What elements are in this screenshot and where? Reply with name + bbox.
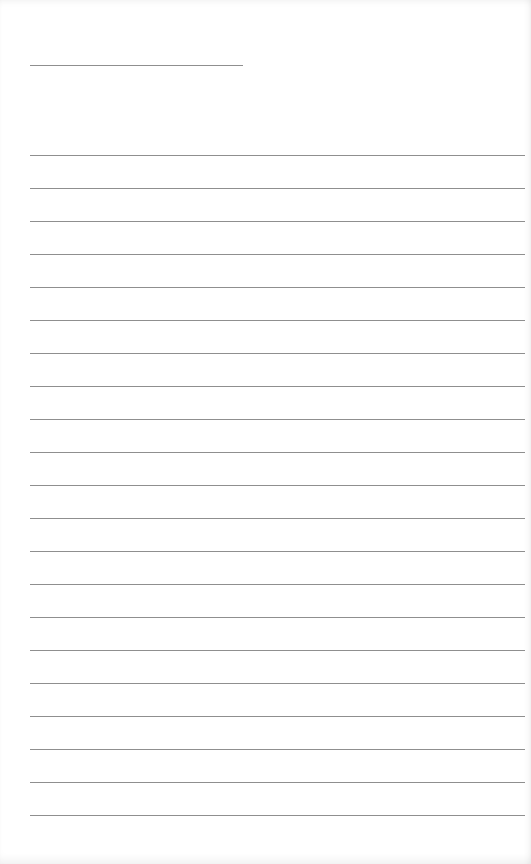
ruled-line[interactable] bbox=[30, 155, 525, 156]
ruled-line[interactable] bbox=[30, 452, 525, 453]
ruled-line[interactable] bbox=[30, 650, 525, 651]
ruled-line[interactable] bbox=[30, 716, 525, 717]
lined-paper-sheet bbox=[0, 0, 531, 864]
ruled-line[interactable] bbox=[30, 584, 525, 585]
ruled-line[interactable] bbox=[30, 254, 525, 255]
ruled-line[interactable] bbox=[30, 386, 525, 387]
ruled-line[interactable] bbox=[30, 419, 525, 420]
ruled-line[interactable] bbox=[30, 683, 525, 684]
header-write-line[interactable] bbox=[30, 65, 243, 66]
ruled-line[interactable] bbox=[30, 320, 525, 321]
ruled-line[interactable] bbox=[30, 221, 525, 222]
ruled-line[interactable] bbox=[30, 551, 525, 552]
ruled-line[interactable] bbox=[30, 518, 525, 519]
ruled-line[interactable] bbox=[30, 485, 525, 486]
ruled-line[interactable] bbox=[30, 749, 525, 750]
ruled-line[interactable] bbox=[30, 353, 525, 354]
ruled-line[interactable] bbox=[30, 617, 525, 618]
ruled-line[interactable] bbox=[30, 815, 525, 816]
ruled-line[interactable] bbox=[30, 287, 525, 288]
ruled-line[interactable] bbox=[30, 188, 525, 189]
ruled-line[interactable] bbox=[30, 782, 525, 783]
